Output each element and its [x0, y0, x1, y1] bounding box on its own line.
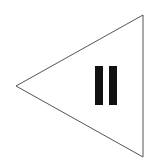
pause-bar-right [109, 66, 117, 105]
triangle-pause-icon [0, 0, 157, 162]
pause-bar-left [95, 66, 103, 105]
left-pointing-triangle [16, 15, 143, 157]
